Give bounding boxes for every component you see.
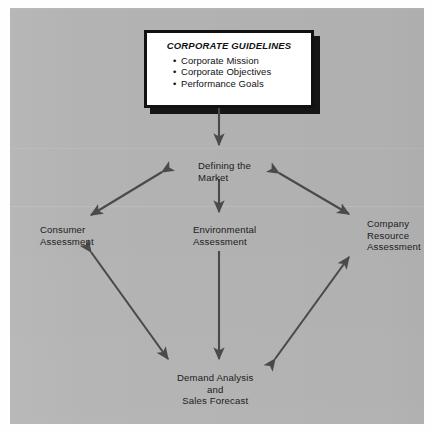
corporate-guidelines-box: CORPORATE GUIDELINES • Corporate Mission… bbox=[144, 30, 314, 108]
node-label-line: Resource bbox=[367, 230, 421, 242]
node-label-line: Defining the bbox=[198, 160, 251, 172]
guidelines-list-item: • Performance Goals bbox=[173, 78, 311, 89]
node-company-resource-assessment: Company Resource Assessment bbox=[367, 218, 421, 253]
bullet-icon: • bbox=[173, 66, 176, 77]
guidelines-list-item: • Corporate Mission bbox=[173, 55, 311, 66]
node-label-line: Assessment bbox=[193, 236, 256, 248]
node-label-line: Assessment bbox=[40, 236, 94, 248]
arrow-company-resource-assessment-to-demand-analysis bbox=[275, 257, 349, 359]
arrow-defining-market-to-consumer-assessment bbox=[91, 172, 162, 215]
guidelines-item-label: Corporate Mission bbox=[181, 55, 259, 66]
diagram-figure: CORPORATE GUIDELINES • Corporate Mission… bbox=[0, 0, 434, 434]
node-label-line: Assessment bbox=[367, 241, 421, 253]
guidelines-list-item: • Corporate Objectives bbox=[173, 66, 311, 77]
node-label-line: Environmental bbox=[193, 224, 256, 236]
bullet-icon: • bbox=[173, 78, 176, 89]
guidelines-item-label: Corporate Objectives bbox=[181, 66, 271, 77]
node-label-line: Market bbox=[198, 172, 251, 184]
guidelines-list: • Corporate Mission • Corporate Objectiv… bbox=[147, 55, 311, 89]
node-defining-the-market: Defining the Market bbox=[198, 160, 251, 183]
guidelines-item-label: Performance Goals bbox=[181, 78, 264, 89]
node-label-line: and bbox=[177, 384, 253, 396]
arrow-defining-market-to-company-resource-assessment bbox=[279, 173, 349, 214]
guidelines-title: CORPORATE GUIDELINES bbox=[147, 40, 311, 51]
node-label-line: Consumer bbox=[40, 224, 94, 236]
diagram-panel: CORPORATE GUIDELINES • Corporate Mission… bbox=[10, 8, 424, 424]
bullet-icon: • bbox=[173, 55, 176, 66]
node-consumer-assessment: Consumer Assessment bbox=[40, 224, 94, 247]
node-demand-analysis-and-sales-forecast: Demand Analysis and Sales Forecast bbox=[177, 372, 253, 407]
node-label-line: Sales Forecast bbox=[177, 395, 253, 407]
node-label-line: Company bbox=[367, 218, 421, 230]
node-label-line: Demand Analysis bbox=[177, 372, 253, 384]
node-environmental-assessment: Environmental Assessment bbox=[193, 224, 256, 247]
arrow-consumer-assessment-to-demand-analysis bbox=[91, 252, 168, 359]
